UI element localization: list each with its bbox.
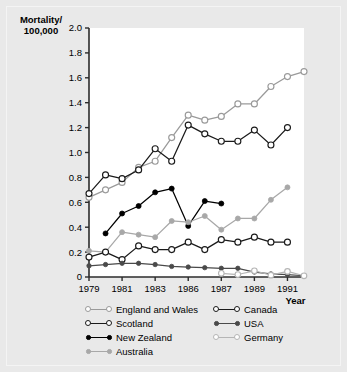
data-point-marker: [284, 239, 290, 245]
data-point-marker: [185, 112, 191, 118]
legend-item-canada[interactable]: Canada: [212, 302, 283, 316]
x-tick-label: 1991: [277, 283, 298, 294]
legend-label: USA: [242, 318, 264, 329]
data-point-marker: [169, 264, 173, 268]
data-point-marker: [169, 135, 175, 141]
x-tick-label: 1989: [244, 283, 265, 294]
legend-dot: [235, 321, 240, 326]
legend-item-new-zealand[interactable]: New Zealand: [84, 330, 198, 344]
data-point-marker: [186, 265, 190, 269]
legend-marker-scotland-icon: [84, 317, 114, 329]
data-point-marker: [284, 74, 290, 80]
y-tick-label: 1.6: [69, 72, 82, 83]
y-tick-label: 0.6: [69, 197, 82, 208]
legend-dot: [107, 335, 112, 340]
data-point-marker: [136, 167, 142, 173]
data-point-marker: [268, 197, 273, 202]
legend-marker-england-and-wales-icon: [84, 303, 114, 315]
figure-background: Mortality/ 100,000 00.20.40.60.81.01.21.…: [0, 0, 347, 372]
data-point-marker: [119, 176, 125, 182]
data-point-marker: [169, 247, 175, 253]
data-point-marker: [251, 234, 257, 240]
legend-item-scotland[interactable]: Scotland: [84, 316, 198, 330]
data-point-marker: [235, 138, 241, 144]
data-point-marker: [268, 142, 274, 148]
data-point-marker: [218, 237, 224, 243]
data-point-marker: [120, 230, 125, 235]
x-axis: 1979198119831986198719891991: [78, 277, 304, 294]
legend-item-england-and-wales[interactable]: England and Wales: [84, 302, 198, 316]
data-point-marker: [251, 101, 257, 107]
data-point-marker: [219, 266, 223, 270]
y-axis: 00.20.40.60.81.01.21.41.61.82.0: [69, 22, 89, 282]
data-point-marker: [252, 216, 257, 221]
legend-dot: [234, 334, 240, 340]
y-tick-label: 1.8: [69, 47, 82, 58]
data-point-marker: [152, 158, 158, 164]
chart-legend: England and WalesScotlandNew ZealandAust…: [84, 302, 334, 362]
data-point-marker: [103, 187, 109, 193]
legend-item-usa[interactable]: USA: [212, 316, 283, 330]
data-point-marker: [268, 239, 274, 245]
data-point-marker: [153, 262, 157, 266]
data-point-marker: [152, 247, 158, 253]
data-point-marker: [202, 199, 207, 204]
data-point-marker: [236, 266, 240, 270]
legend-marker-usa-icon: [212, 317, 242, 329]
data-point-marker: [103, 172, 109, 178]
data-point-marker: [219, 227, 224, 232]
legend-label: England and Wales: [114, 304, 198, 315]
legend-marker-germany-icon: [212, 331, 242, 343]
x-tick-label: 1983: [145, 283, 166, 294]
legend-item-germany[interactable]: Germany: [212, 330, 283, 344]
x-tick-label: 1981: [112, 283, 133, 294]
data-point-marker: [136, 204, 141, 209]
legend-marker-new-zealand-icon: [84, 331, 114, 343]
data-point-marker: [268, 84, 274, 90]
data-point-marker: [120, 261, 124, 265]
data-point-marker: [152, 146, 158, 152]
data-point-marker: [284, 125, 290, 131]
legend-item-australia[interactable]: Australia: [84, 344, 198, 358]
legend-label: Germany: [242, 332, 283, 343]
data-point-marker: [285, 185, 290, 190]
data-point-marker: [185, 122, 191, 128]
y-tick-label: 0.2: [69, 247, 82, 258]
data-point-marker: [235, 216, 240, 221]
data-point-marker: [103, 249, 109, 255]
data-point-marker: [219, 201, 224, 206]
data-point-marker: [252, 268, 258, 274]
data-point-marker: [219, 270, 225, 276]
data-point-marker: [153, 190, 158, 195]
data-point-marker: [87, 264, 91, 268]
data-point-marker: [285, 269, 291, 275]
data-point-marker: [203, 265, 207, 269]
data-point-marker: [202, 247, 208, 253]
legend-dot: [86, 349, 91, 354]
y-tick-label: 0.4: [69, 222, 82, 233]
legend-dot: [106, 320, 112, 326]
legend-label: Scotland: [114, 318, 153, 329]
data-point-marker: [103, 262, 107, 266]
legend-marker-canada-icon: [212, 303, 242, 315]
legend-label: Australia: [114, 346, 153, 357]
x-tick-label: 1979: [78, 283, 99, 294]
data-point-marker: [136, 243, 142, 249]
data-point-marker: [120, 211, 125, 216]
legend-dot: [86, 335, 91, 340]
data-point-marker: [169, 158, 175, 164]
data-point-marker: [218, 113, 224, 119]
legend-dot: [213, 306, 219, 312]
data-point-marker: [202, 131, 208, 137]
data-point-marker: [169, 218, 174, 223]
data-point-marker: [235, 101, 241, 107]
data-point-marker: [86, 191, 92, 197]
data-point-marker: [186, 220, 191, 225]
data-point-marker: [169, 186, 174, 191]
y-tick-label: 2.0: [69, 22, 82, 33]
legend-dot: [214, 321, 219, 326]
legend-column-left: England and WalesScotlandNew ZealandAust…: [84, 302, 198, 358]
legend-dot: [213, 334, 219, 340]
data-point-marker: [185, 239, 191, 245]
x-tick-label: 1986: [178, 283, 199, 294]
